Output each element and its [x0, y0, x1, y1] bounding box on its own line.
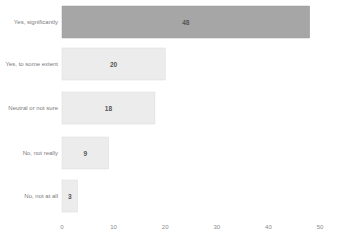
bar-chart: Yes, significantlyYes, to some extentNeu… — [0, 0, 364, 237]
category-label-yes-to-some-extent: Yes, to some extent — [6, 61, 59, 67]
category-labels-group: Yes, significantlyYes, to some extentNeu… — [6, 19, 59, 199]
value-label-no-not-really: 9 — [83, 150, 87, 157]
category-label-no-not-really: No, not really — [23, 150, 58, 156]
x-tick-label-10: 10 — [110, 224, 117, 230]
x-tick-label-20: 20 — [162, 224, 169, 230]
x-axis-ticks-group: 01020304050 — [60, 224, 324, 230]
value-label-no-not-at-all: 3 — [68, 193, 72, 200]
bars-group — [62, 6, 310, 212]
category-label-yes-significantly: Yes, significantly — [14, 19, 58, 25]
category-label-neutral-or-not-sure: Neutral or not sure — [8, 105, 58, 111]
value-label-neutral-or-not-sure: 18 — [105, 105, 113, 112]
category-label-no-not-at-all: No, not at all — [24, 193, 58, 199]
x-tick-label-50: 50 — [317, 224, 324, 230]
value-label-yes-to-some-extent: 20 — [110, 61, 118, 68]
x-tick-label-40: 40 — [265, 224, 272, 230]
x-tick-label-30: 30 — [213, 224, 220, 230]
value-label-yes-significantly: 48 — [182, 19, 190, 26]
x-tick-label-0: 0 — [60, 224, 64, 230]
